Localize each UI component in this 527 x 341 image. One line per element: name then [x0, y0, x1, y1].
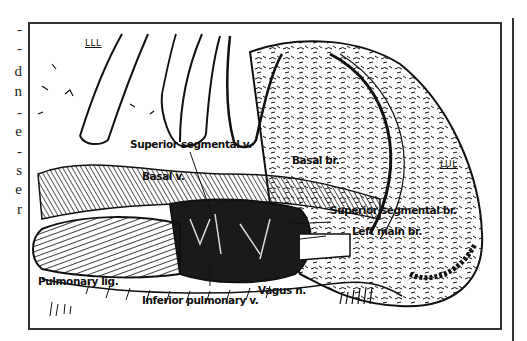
label-vagus-n: Vagus n.	[258, 284, 306, 296]
figure-frame: LLL LUL Superior segmental v. Basal br. …	[28, 22, 502, 330]
label-inferior-pulmonary-v: Inferior pulmonary v.	[142, 294, 258, 306]
column-divider	[512, 18, 514, 341]
label-basal-v: Basal v.	[142, 170, 184, 182]
clipped-column-text: - - d n - e - s e r	[0, 0, 24, 341]
margin-char: d	[15, 64, 23, 79]
label-lll: LLL	[85, 38, 102, 48]
label-superior-segmental-v: Superior segmental v.	[130, 138, 252, 150]
label-lul: LUL	[440, 159, 458, 169]
label-pulmonary-lig: Pulmonary lig.	[38, 275, 118, 287]
label-basal-br: Basal br.	[292, 154, 339, 166]
margin-char: -	[17, 144, 22, 159]
margin-char: n	[15, 84, 23, 99]
label-superior-segmental-br: Superior segmental br.	[330, 204, 457, 216]
margin-char: e	[15, 124, 22, 139]
margin-char: -	[17, 105, 22, 120]
margin-char: e	[15, 182, 22, 197]
margin-char: s	[16, 163, 22, 178]
margin-char: -	[17, 22, 22, 37]
margin-char: -	[17, 41, 22, 56]
margin-char: r	[17, 202, 22, 217]
label-left-main-br: Left main br.	[352, 225, 422, 237]
